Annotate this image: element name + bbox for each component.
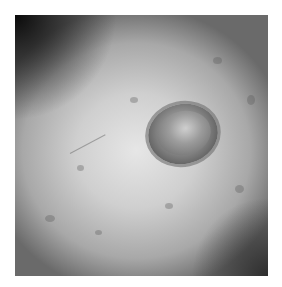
skin-spot [130, 97, 138, 103]
skin-spot [165, 203, 173, 209]
skin-spot [77, 165, 84, 171]
skin-photo [15, 15, 268, 276]
skin-spot [45, 215, 55, 222]
corner-shadow-bottom [15, 15, 268, 276]
skin-spot [95, 230, 102, 235]
skin-spot [235, 185, 244, 193]
skin-spot [247, 95, 255, 105]
skin-spot [213, 57, 222, 64]
